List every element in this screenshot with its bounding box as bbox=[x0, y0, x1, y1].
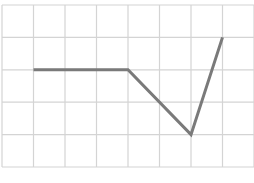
line-chart bbox=[0, 0, 254, 183]
chart-grid bbox=[2, 5, 254, 167]
